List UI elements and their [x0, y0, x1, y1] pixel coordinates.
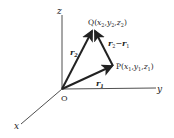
vector-r1-label: r1 — [96, 78, 104, 89]
vector-r1 — [62, 66, 112, 89]
z-axis-label: z — [56, 6, 62, 16]
vector-r2 — [62, 31, 92, 89]
vector-r2-minus-r1 — [95, 31, 113, 66]
point-q-label: Q(x2,y2,z2) — [88, 18, 127, 28]
x-axis — [21, 89, 62, 124]
vector-r2-label: r2 — [70, 47, 78, 58]
origin-label: O — [61, 94, 68, 103]
point-p-label: P(x1,y1,z1) — [116, 62, 154, 72]
vector-diff-label: r2−r1 — [108, 38, 130, 49]
x-axis-label: x — [14, 121, 19, 131]
y-axis-label: y — [156, 84, 163, 94]
vector-diagram: z y x O Q(x2,y2,z2) P(x1,y1,z1) r2 r1 r2… — [0, 0, 174, 138]
y-axis — [62, 88, 156, 89]
